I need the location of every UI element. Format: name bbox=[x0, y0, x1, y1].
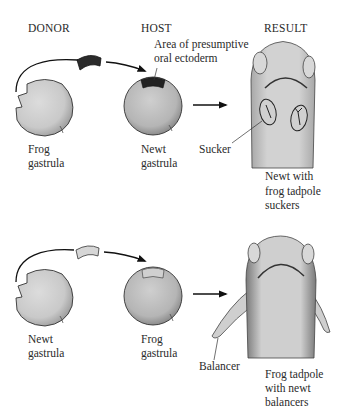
newt-gastrula-donor bbox=[16, 270, 73, 327]
tadpole-eye-right bbox=[302, 244, 314, 264]
bottom-result-caption-1: Frog tadpole bbox=[265, 367, 323, 381]
header-result: RESULT bbox=[264, 22, 308, 34]
bottom-donor-label-1: Newt bbox=[28, 332, 53, 346]
annotation-line2: oral ectoderm bbox=[154, 51, 218, 65]
top-result-caption-2: frog tadpole bbox=[265, 184, 321, 198]
annotation-line1: Area of presumptive bbox=[154, 37, 249, 51]
eye-right bbox=[303, 56, 315, 78]
bottom-donor-label-2: gastrula bbox=[28, 346, 64, 360]
top-host-label-2: gastrula bbox=[141, 156, 177, 170]
bottom-result-caption-3: balancers bbox=[265, 395, 308, 409]
tadpole-eye-left bbox=[248, 243, 260, 263]
header-host: HOST bbox=[141, 22, 172, 34]
bottom-host-label-2: gastrula bbox=[141, 346, 177, 360]
balancer-leader-line bbox=[214, 338, 218, 360]
top-result-caption-1: Newt with bbox=[265, 169, 313, 183]
bottom-result-caption-2: with newt bbox=[265, 381, 311, 395]
sucker-label: Sucker bbox=[199, 142, 231, 156]
grafted-patch bbox=[142, 268, 164, 278]
bottom-host-label-1: Frog bbox=[141, 332, 163, 346]
graft-piece-bottom bbox=[76, 246, 99, 259]
frog-gastrula-donor bbox=[16, 80, 73, 137]
top-donor-label-2: gastrula bbox=[28, 156, 64, 170]
transfer-arrow-top-head bbox=[106, 62, 145, 71]
graft-piece-top bbox=[77, 55, 101, 70]
header-donor: DONOR bbox=[28, 22, 70, 34]
eye-left bbox=[253, 52, 267, 74]
top-host-label-1: Newt bbox=[141, 142, 166, 156]
transfer-arrow-bottom-head bbox=[104, 252, 145, 261]
top-donor-label-1: Frog bbox=[28, 142, 50, 156]
top-result-caption-3: suckers bbox=[265, 198, 300, 212]
balancer-label: Balancer bbox=[199, 359, 240, 373]
